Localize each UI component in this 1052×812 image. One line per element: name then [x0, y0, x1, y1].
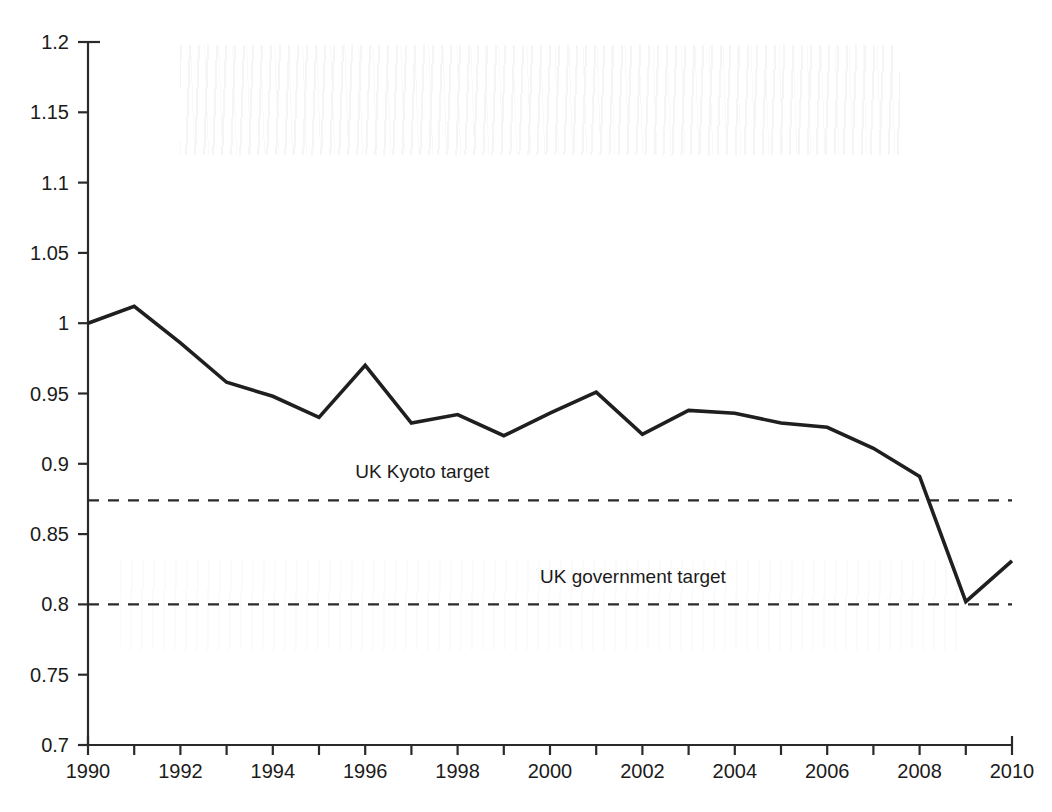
x-axis-tick-label: 2000 [528, 760, 573, 782]
y-axis-tick-label: 0.85 [30, 523, 69, 545]
y-axis-tick-label: 1.2 [41, 31, 69, 53]
x-axis-tick-label: 2002 [620, 760, 665, 782]
x-axis-tick-label: 1996 [343, 760, 388, 782]
x-axis-tick-label: 2004 [713, 760, 758, 782]
x-axis-tick-label: 1998 [435, 760, 480, 782]
line-chart: 0.70.750.80.850.90.9511.051.11.151.2 199… [0, 0, 1052, 812]
reference-line-group [88, 500, 1012, 604]
chart-page: 0.70.750.80.850.90.9511.051.11.151.2 199… [0, 0, 1052, 812]
y-axis-tick-label: 0.7 [41, 734, 69, 756]
x-axis-tick-label: 1992 [158, 760, 203, 782]
x-axis-tick-label: 2010 [990, 760, 1035, 782]
y-axis-tick-label: 0.95 [30, 383, 69, 405]
x-axis-tick-label: 1994 [251, 760, 296, 782]
y-axis-tick-label: 1.1 [41, 172, 69, 194]
y-axis-tick-label: 0.75 [30, 664, 69, 686]
emissions-series-line [88, 306, 1012, 601]
y-axis-tick-group: 0.70.750.80.850.90.9511.051.11.151.2 [30, 31, 100, 756]
x-axis-tick-label: 2008 [897, 760, 942, 782]
y-axis-tick-label: 1.05 [30, 242, 69, 264]
reference-label-group: UK Kyoto targetUK government target [355, 461, 726, 587]
x-axis-tick-label: 1990 [66, 760, 111, 782]
x-axis-tick-label: 2006 [805, 760, 850, 782]
reference-line-label-0: UK Kyoto target [355, 461, 490, 482]
y-axis-tick-label: 0.8 [41, 593, 69, 615]
y-axis-tick-label: 1 [58, 312, 69, 334]
reference-line-label-1: UK government target [540, 566, 727, 587]
y-axis-tick-label: 1.15 [30, 101, 69, 123]
y-axis-tick-label: 0.9 [41, 453, 69, 475]
x-axis-tick-group: 1990199219941996199820002002200420062008… [66, 736, 1035, 782]
